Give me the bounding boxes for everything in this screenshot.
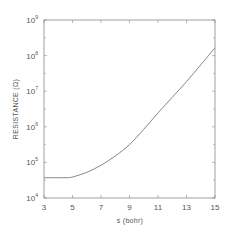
x-tick-label: 9 — [127, 203, 132, 212]
x-tick-label: 5 — [70, 203, 75, 212]
x-tick-label: 13 — [182, 203, 191, 212]
y-tick-label: 106 — [26, 121, 38, 132]
y-axis-label: RESISTANCE (Ω) — [12, 79, 20, 139]
resistance-chart: 3579111315 104105106107108109 s (bohr) R… — [0, 0, 231, 234]
y-tick-label: 104 — [26, 192, 38, 203]
x-tick-label: 3 — [42, 203, 47, 212]
y-tick-label: 108 — [26, 50, 38, 61]
y-tick-label: 107 — [26, 85, 38, 96]
y-tick-label: 109 — [26, 14, 38, 25]
plot-series — [44, 48, 215, 178]
axes — [44, 20, 215, 198]
plot-frame — [44, 20, 215, 198]
x-tick-label: 7 — [99, 203, 104, 212]
x-ticks: 3579111315 — [42, 20, 220, 212]
x-tick-label: 15 — [211, 203, 220, 212]
y-ticks: 104105106107108109 — [26, 14, 215, 203]
x-axis-label: s (bohr) — [117, 217, 144, 225]
y-tick-label: 105 — [26, 156, 38, 167]
series-line-resistance — [44, 48, 215, 178]
x-tick-label: 11 — [154, 203, 163, 212]
